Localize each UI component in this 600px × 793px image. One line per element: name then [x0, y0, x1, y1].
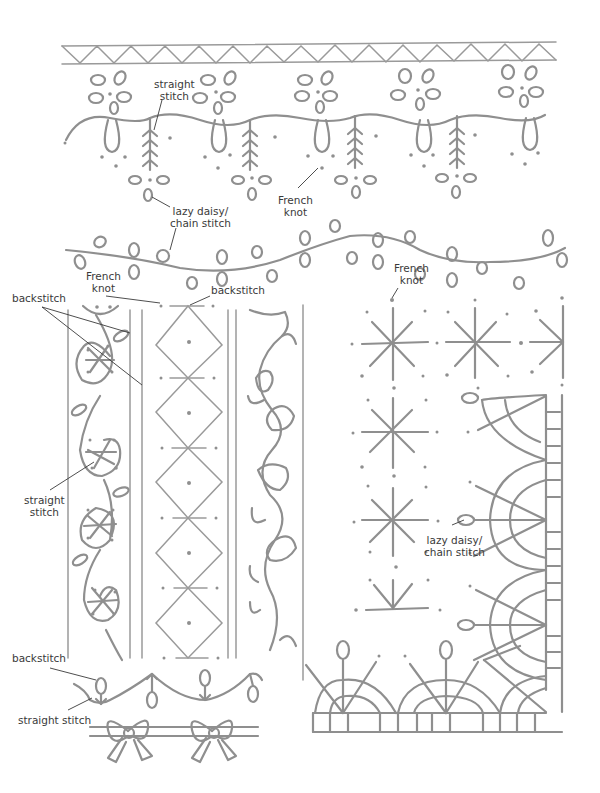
label-french-knot-right: French knot — [394, 262, 429, 286]
label-french-knot-top: French knot — [278, 194, 313, 218]
label-french-knot-left: French knot — [86, 270, 121, 294]
diamond-column — [156, 305, 222, 660]
label-lazy-daisy-top: lazy daisy/ chain stitch — [170, 205, 231, 229]
label-straight-stitch-top: straight stitch — [154, 78, 195, 102]
embroidery-pattern-artwork — [0, 0, 600, 793]
tulip-wave — [74, 670, 262, 708]
label-straight-stitch-bottom: straight stitch — [18, 714, 91, 726]
label-leader-lines — [42, 100, 464, 710]
label-backstitch-bottom: backstitch — [12, 652, 66, 664]
scallop-flower-border — [64, 64, 546, 201]
bow-border — [90, 721, 258, 762]
star-grid-corner — [306, 296, 564, 732]
heart-vine-column — [248, 310, 296, 650]
label-lazy-daisy-right: lazy daisy/ chain stitch — [424, 534, 485, 558]
label-backstitch-mid: backstitch — [211, 284, 265, 296]
zigzag-border — [62, 42, 556, 64]
leafy-vine — [66, 220, 567, 289]
swirl-column — [70, 305, 130, 660]
label-backstitch-left: backstitch — [12, 292, 66, 304]
label-straight-stitch-left: straight stitch — [24, 494, 65, 518]
